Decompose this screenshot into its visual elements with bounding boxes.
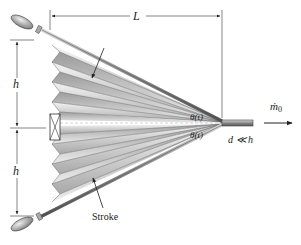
nozzle-condition-label: d ≪ h [228,134,253,145]
length-label: L [132,9,140,23]
stroke-label: Stroke [92,211,119,222]
bellows-diagram: L h h θ(t) θ(t) ṁ0 d ≪ h Stroke [0,0,301,245]
nozzle [222,120,253,126]
height-dimension [10,40,46,216]
valve-box [50,114,60,140]
mass-flow-label: ṁ0 [270,100,282,114]
height-label-top: h [13,77,19,91]
height-label-bottom: h [13,164,19,178]
angle-label-bottom: θ(t) [190,130,203,140]
angle-label-top: θ(t) [190,112,203,122]
